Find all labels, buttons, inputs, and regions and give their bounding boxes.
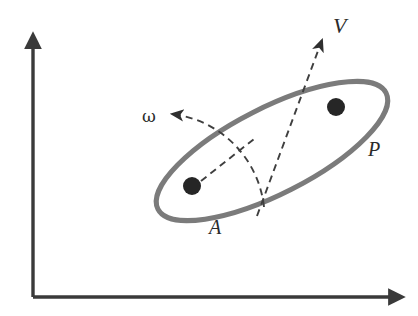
- point-p-marker: [327, 98, 345, 116]
- rigid-body-group: [138, 55, 405, 248]
- rigid-body-ellipse: [138, 55, 405, 248]
- rigid-body-label: P: [367, 138, 380, 160]
- marker-group: [183, 98, 345, 195]
- point-a-label: A: [207, 216, 222, 238]
- kinematics-diagram: V ω A P: [0, 0, 418, 316]
- velocity-label: V: [333, 13, 349, 38]
- point-a-marker: [183, 177, 201, 195]
- angular-velocity-arc: [172, 114, 264, 207]
- angular-velocity-label: ω: [142, 106, 156, 126]
- figure-container: V ω A P: [0, 0, 418, 316]
